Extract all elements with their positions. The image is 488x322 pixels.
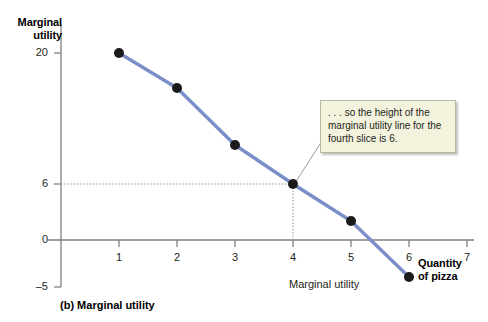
y-tick-label-neg5: –5 xyxy=(20,280,48,292)
figure-caption: (b) Marginal utility xyxy=(60,299,155,311)
x-axis-title-line2: of pizza xyxy=(418,270,458,282)
chart-plot-area xyxy=(0,0,488,322)
data-point-3 xyxy=(230,140,240,150)
marginal-utility-chart-figure: Marginal utility Quantity of pizza 20 6 … xyxy=(0,0,488,322)
series-label-marginal-utility: Marginal utility xyxy=(289,278,359,290)
data-point-6 xyxy=(404,272,414,282)
x-tick-label-2: 2 xyxy=(167,251,187,263)
x-tick-label-5: 5 xyxy=(341,251,361,263)
data-point-2 xyxy=(172,83,182,93)
x-tick-label-6: 6 xyxy=(399,251,419,263)
x-axis-title-line1: Quantity xyxy=(418,257,462,269)
y-tick-label-20: 20 xyxy=(20,46,48,58)
callout-leader-line xyxy=(295,141,322,183)
y-tick-label-6: 6 xyxy=(20,177,48,189)
x-tick-label-3: 3 xyxy=(225,251,245,263)
x-tick-label-7: 7 xyxy=(457,251,477,263)
y-axis-title: Marginal utility xyxy=(10,16,62,42)
marginal-utility-line xyxy=(119,53,409,277)
x-tick-label-1: 1 xyxy=(109,251,129,263)
y-axis-title-line2: utility xyxy=(33,29,62,41)
y-tick-label-0: 0 xyxy=(20,233,48,245)
y-axis-title-line1: Marginal xyxy=(18,16,62,28)
height-callout-box: . . . so the height of the marginal util… xyxy=(320,100,456,153)
x-tick-label-4: 4 xyxy=(283,251,303,263)
data-point-4 xyxy=(288,179,298,189)
data-point-1 xyxy=(114,48,124,58)
data-point-5 xyxy=(346,216,356,226)
